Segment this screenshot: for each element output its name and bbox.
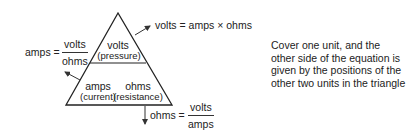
formula-volts-eq: = (180, 19, 186, 31)
label-resistance: (resistance) (112, 92, 164, 102)
formula-ohms-denominator: amps (186, 116, 216, 130)
label-pressure: (pressure) (96, 51, 142, 61)
formula-amps-lhs-text: amps (25, 46, 51, 58)
formula-amps-numerator: volts (62, 38, 88, 53)
formula-amps-fraction: volts ohms (60, 38, 90, 67)
formula-ohms-numerator: volts (188, 101, 214, 116)
explanation-note: Cover one unit, and the other side of th… (271, 39, 406, 89)
formula-volts-rhs: amps × ohms (189, 19, 252, 31)
formula-volts-lhs: volts (155, 19, 177, 31)
formula-amps-lhs: amps = (25, 47, 60, 58)
formula-amps-eq: = (54, 46, 60, 58)
formula-volts: volts = amps × ohms (155, 20, 252, 31)
formula-ohms-lhs-text: ohms (150, 109, 176, 121)
arrow-volts (135, 26, 150, 35)
label-ohms: ohms (120, 81, 156, 92)
formula-amps-denominator: ohms (60, 53, 90, 67)
label-volts: volts (103, 40, 133, 51)
formula-ohms-eq: = (179, 109, 185, 121)
arrow-amps (65, 72, 80, 80)
label-amps: amps (80, 81, 116, 92)
formula-ohms-lhs: ohms = (150, 110, 185, 121)
formula-ohms-fraction: volts amps (186, 101, 216, 130)
